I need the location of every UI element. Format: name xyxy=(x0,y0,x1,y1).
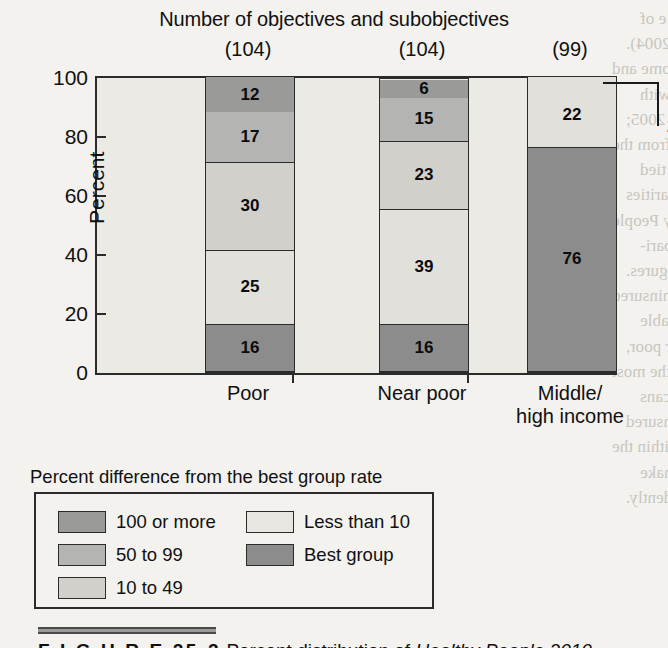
bar-segment-value: 39 xyxy=(415,257,434,277)
bar-segment-value: 23 xyxy=(415,165,434,185)
caption-rule xyxy=(38,627,216,634)
category-counts-row: (104)(104)(99) xyxy=(0,38,668,64)
caption-text-lead: Percent distribution of xyxy=(226,640,415,648)
callout-leader-horizontal xyxy=(603,82,657,84)
x-axis-label: Poor xyxy=(164,382,332,405)
y-tick-mark xyxy=(97,195,106,197)
legend-swatch xyxy=(246,544,294,566)
y-tick-label: 80 xyxy=(24,125,88,149)
figure-caption: F I G U R E 25-2 Percent distribution of… xyxy=(38,640,592,648)
bar-segment[interactable]: 16 xyxy=(206,325,294,372)
bar-segment[interactable]: 15 xyxy=(380,98,468,142)
legend-label: 100 or more xyxy=(116,511,216,533)
legend-swatch xyxy=(58,544,106,566)
legend-item[interactable]: Less than 10 xyxy=(246,510,410,534)
y-tick-label: 60 xyxy=(24,184,88,208)
figure-number: F I G U R E 25-2 xyxy=(38,640,221,648)
plot-area: Percent 10080604020016253017121639231567… xyxy=(95,76,617,375)
x-tick-mark xyxy=(292,375,294,383)
legend-box: 100 or more50 to 9910 to 49Less than 10B… xyxy=(34,492,434,609)
legend-item[interactable]: Best group xyxy=(246,543,393,567)
legend-title: Percent difference from the best group r… xyxy=(30,466,382,488)
legend-label: 10 to 49 xyxy=(116,577,183,599)
legend-label: Best group xyxy=(304,544,393,566)
y-tick-label: 100 xyxy=(24,66,88,90)
callout-leader-vertical xyxy=(657,82,659,126)
y-tick-label: 20 xyxy=(24,302,88,326)
legend-swatch xyxy=(246,511,294,533)
legend-item[interactable]: 50 to 99 xyxy=(58,543,183,567)
legend-label: Less than 10 xyxy=(304,511,410,533)
y-tick-label: 40 xyxy=(24,243,88,267)
category-count: (104) xyxy=(362,38,482,61)
x-axis-label: Near poor xyxy=(338,382,506,405)
y-tick-mark xyxy=(97,313,106,315)
legend-item[interactable]: 100 or more xyxy=(58,510,216,534)
bar-segment-value: 25 xyxy=(241,277,260,297)
legend-swatch xyxy=(58,577,106,599)
bar-segment[interactable]: 30 xyxy=(206,163,294,252)
bar-segment-value: 6 xyxy=(419,79,428,99)
caption-text-title: Healthy People 2010 xyxy=(415,640,591,648)
bar-segment-value: 15 xyxy=(415,109,434,129)
x-axis-label: high income xyxy=(486,405,654,428)
bar-segment-value: 12 xyxy=(241,85,260,105)
x-axis-label: Middle/ xyxy=(486,382,654,405)
bar-segment[interactable]: 25 xyxy=(206,251,294,325)
y-axis-label: Percent xyxy=(85,152,109,224)
bar-segment-value: 30 xyxy=(241,196,260,216)
legend-label: 50 to 99 xyxy=(116,544,183,566)
figure-sheet: Number of objectives and subobjectives (… xyxy=(0,0,668,648)
bar-segment[interactable]: 12 xyxy=(206,77,294,112)
legend-swatch xyxy=(58,511,106,533)
bar-segment[interactable]: 22 xyxy=(528,83,616,148)
legend-item[interactable]: 10 to 49 xyxy=(58,576,183,600)
bar-segment-value: 17 xyxy=(241,127,260,147)
stacked-bar[interactable]: 1625301712 xyxy=(205,78,295,373)
chart-title: Number of objectives and subobjectives xyxy=(0,8,668,31)
y-tick-mark xyxy=(97,136,106,138)
x-tick-mark xyxy=(467,375,469,383)
bar-segment[interactable]: 6 xyxy=(380,80,468,98)
bar-segment[interactable]: 16 xyxy=(380,325,468,372)
bar-segment[interactable]: 17 xyxy=(206,112,294,162)
category-count: (104) xyxy=(188,38,308,61)
stacked-bar[interactable]: 7622 xyxy=(527,78,617,373)
y-tick-mark xyxy=(97,254,106,256)
stacked-bar[interactable]: 163923156 xyxy=(379,78,469,373)
bar-segment-value: 16 xyxy=(241,338,260,358)
bar-segment-value: 22 xyxy=(563,105,582,125)
bar-segment[interactable]: 76 xyxy=(528,148,616,372)
y-tick-label: 0 xyxy=(24,361,88,385)
bar-segment-value: 16 xyxy=(415,338,434,358)
category-count: (99) xyxy=(510,38,630,61)
bar-segment[interactable]: 39 xyxy=(380,210,468,325)
bar-segment[interactable]: 23 xyxy=(380,142,468,210)
bar-segment-value: 76 xyxy=(563,249,582,269)
